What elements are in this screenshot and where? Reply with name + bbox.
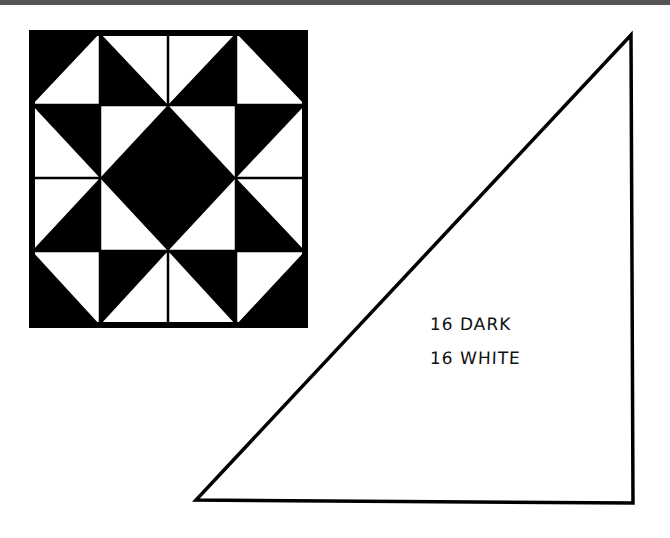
label-dark-count: 16 DARK — [430, 314, 512, 334]
quilt-block — [32, 33, 305, 325]
label-white-count: 16 WHITE — [430, 348, 521, 368]
quilt-diagram — [0, 0, 670, 538]
